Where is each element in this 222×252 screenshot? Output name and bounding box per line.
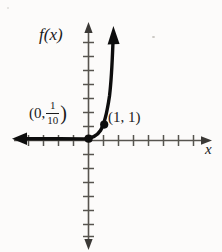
fraction-numerator: 1 (49, 100, 57, 112)
y-axis-up-arrow-icon (84, 22, 92, 33)
fraction-denominator: 10 (46, 115, 59, 127)
graph-figure: f(x) x (1, 1) (0, 1 10 ) (0, 0, 222, 252)
annotation-prefix: (0, (29, 106, 45, 121)
annotation-suffix: ) (60, 103, 67, 123)
y-axis-down-arrow-icon (84, 239, 92, 250)
y-axis-label: f(x) (39, 26, 63, 43)
scan-speck (7, 7, 9, 9)
x-axis-label: x (205, 142, 212, 157)
curve-up-arrow-icon (108, 26, 120, 45)
annotation-point-one-one: (1, 1) (108, 110, 141, 125)
point-marker-y-intercept (85, 135, 93, 143)
curve-left-arrow-icon (12, 133, 27, 146)
fraction-one-tenth: 1 10 (46, 100, 59, 126)
annotation-point-y-intercept: (0, 1 10 ) (29, 100, 67, 126)
scan-speck (152, 36, 155, 38)
